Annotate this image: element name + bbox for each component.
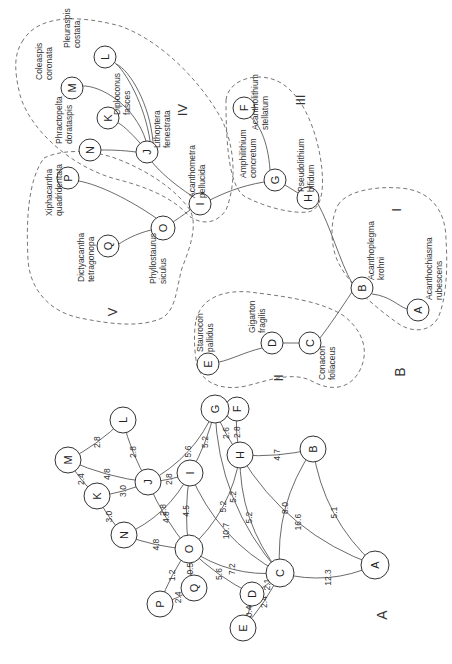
edge-weight-label: 3.0 [104,510,114,522]
node-letter: Q [188,583,200,592]
edge-weight-label: 5.6 [183,445,193,457]
edge-weight-label: 5.2 [218,500,228,512]
edge-weight-label: 7.2 [227,563,237,575]
node-letter: O [157,223,169,232]
node-letter: B [307,445,319,452]
node-letter: Q [102,241,114,250]
edge-b-a [372,294,407,309]
edge-weight-label: 2.8 [92,436,102,448]
node-letter: J [142,479,154,485]
group-label-v: V [105,307,120,316]
species-label-c: Conaconfoliaceus [317,346,337,380]
diagram-canvas: 2.82.84.82.43.03.05.62.85.22.84.84.84.51… [0,0,452,664]
node-letter: O [183,544,195,553]
group-label-iii: III [293,95,308,106]
node-letter: C [304,339,316,347]
diagram-a-node-h: H [227,442,253,468]
diagram-b-node-e: E [197,353,219,375]
diagram-a-node-l: L [110,407,136,433]
node-letter: H [234,451,246,459]
diagram-b-species-labels: Acanthochiasmarubescens Acanthoplegmakro… [34,8,444,380]
edge-weight-label: 2.4 [173,591,183,603]
diagram-b-groups [16,19,447,388]
edge-weight-label: 5.1 [329,506,339,518]
node-letter: G [269,176,281,185]
node-letter: A [412,306,424,314]
edge-weight-label: 2.8 [164,473,174,485]
edge-weight-label: 5.2 [200,436,210,448]
group-label-i: I [389,208,404,212]
node-letter: D [266,339,278,347]
edge-weight-label: 0.5 [185,563,195,575]
node-letter: N [118,531,130,539]
node-letter: I [194,202,206,205]
edge-i-j [152,162,192,196]
node-letter: E [202,360,214,367]
diagram-b-node-l: L [94,46,116,68]
edge-b-c [320,292,352,338]
diagram-a-edges: 2.82.84.82.43.03.05.62.85.22.84.84.84.51… [68,404,375,628]
species-label-l: Pleuraspiscostata [62,8,82,48]
panel-label-a: A [374,610,390,620]
edge-weight-label: 12.3 [323,569,333,586]
species-label-b: Acanthoplegmakrohni [366,221,386,280]
edge-g-i [210,182,264,200]
species-label-j: Lithopterafenestrata [152,110,172,148]
species-label-k: Diploconusfasces [112,73,132,115]
species-label-o: Phyllostaurussiculus [148,233,168,284]
diagram-b-node-g: G [264,169,286,191]
diagram-a-node-a: A [361,551,389,579]
species-label-i: Acanthometrapellucida [187,145,207,198]
diagram-b-node-m: M [61,77,83,99]
node-letter: L [117,417,129,423]
diagram-b-node-q: Q [97,235,119,257]
diagram-a-node-b: B [300,436,326,462]
edge-i-o [173,210,190,222]
diagram-a-node-n: N [111,522,137,548]
species-label-d: Gigartonfragilis [247,300,267,333]
node-letter: J [141,149,153,155]
diagram-b-node-a: A [407,299,429,321]
edge-weight-label: 4.8 [102,468,112,480]
edge-weight-label: 5.6 [214,568,224,580]
edge-weight-label: 2.8 [128,446,138,458]
diagram-a-node-k: K [84,483,110,509]
edge-weight-label: 2.4 [76,473,86,485]
species-label-a: Acanthochiasmarubescens [424,237,444,300]
diagram-a-node-q: Q [181,575,207,601]
node-letter: E [237,624,249,631]
node-letter: A [369,561,381,569]
diagram-a-node-p: P [147,591,173,617]
edge-weight-label: 16.6 [293,514,303,531]
edge-weight-label: 2.8 [232,426,242,438]
edge-weight-label: 4.8 [161,511,171,523]
node-letter: F [238,104,250,111]
edge-j-n [101,150,136,152]
diagram-a-node-m: M [55,447,81,473]
node-letter: M [66,83,78,92]
group-label-ii: II [271,374,286,381]
node-letter: B [356,284,368,291]
node-letter: G [209,405,221,414]
edge-j-k [116,122,140,143]
diagram-a-node-d: D [240,582,264,606]
edge-weight-label: 3.0 [118,485,128,497]
node-letter: N [84,146,96,154]
node-letter: P [154,600,166,607]
edge-a-b-a [313,449,375,565]
edge-b-h [318,204,352,283]
node-letter: I [184,471,196,474]
species-label-h: Pseudolithiumbifidum [296,139,316,192]
edge-weight-label: 2.6 [221,427,231,439]
edge-weight-label: 1.2 [167,569,177,581]
edge-weight-label: 5.2 [228,491,238,503]
species-label-f: Acantholithiumstellatum [250,74,270,130]
species-label-q: Dictyacanthatetragonopa [76,233,96,282]
diagram-a-node-i: I [177,460,203,486]
species-label-p: Xiphacanthaquadridentata [44,164,64,216]
edge-d-e [219,348,262,362]
diagram-b-node-n: N [79,139,101,161]
node-letter: K [91,492,103,500]
edge-o-q [119,230,151,244]
edge-weight-label: 5.2 [244,511,254,523]
